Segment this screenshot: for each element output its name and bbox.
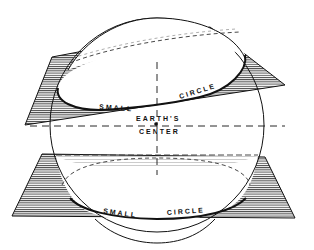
center-label-line1: EARTH'S — [136, 115, 180, 122]
earth-center-point — [154, 122, 158, 126]
diagram-canvas: SMALL CIRCLE EARTH'S CENTER SMALL CIRCLE — [0, 0, 314, 250]
lower-plane — [12, 154, 295, 221]
center-label-line2: CENTER — [139, 128, 180, 135]
